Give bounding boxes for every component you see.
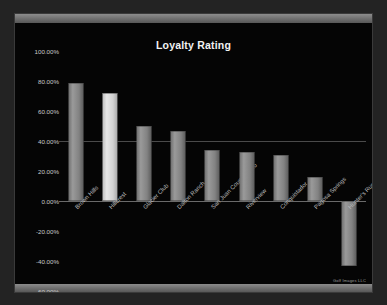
y-axis-tick-labels: 100.00%80.00%60.00%40.00%20.00%0.00%-20.…	[17, 23, 59, 284]
bar-slot: Brown Hills	[59, 23, 93, 284]
y-axis-tick-label: 80.00%	[38, 78, 59, 85]
y-axis-tick-label: -40.00%	[36, 258, 59, 265]
bar-slot: Pagosa Springs	[298, 23, 332, 284]
bar[interactable]	[103, 93, 118, 201]
y-axis-tick-label: 100.00%	[35, 48, 59, 55]
y-axis-tick-label: 20.00%	[38, 168, 59, 175]
bar-slot: Glacier Club	[127, 23, 161, 284]
slide-canvas: Loyalty Rating 100.00%80.00%60.00%40.00%…	[14, 13, 373, 293]
bar-slot: Dalton Ranch	[161, 23, 195, 284]
bar-slot: Riverview	[230, 23, 264, 284]
bar[interactable]	[171, 131, 186, 202]
bar-slot: Hunter's Run	[332, 23, 366, 284]
x-axis-category-label: Hunter's Run	[347, 181, 373, 210]
bar[interactable]	[69, 83, 84, 202]
slide-bottom-band	[15, 284, 372, 292]
bar-slot: Hillcrest	[93, 23, 127, 284]
y-axis-tick-label: -60.00%	[36, 288, 59, 294]
bar-slot: Conquistador	[264, 23, 298, 284]
bar-series: Brown HillsHillcrestGlacier ClubDalton R…	[59, 23, 366, 284]
bar[interactable]	[341, 201, 356, 266]
y-axis-tick-label: 0.00%	[41, 198, 59, 205]
slide-top-band	[15, 14, 372, 23]
y-axis-tick-label: -20.00%	[36, 228, 59, 235]
y-axis-tick-label: 40.00%	[38, 138, 59, 145]
watermark-text: Golf Images LLC	[333, 278, 366, 283]
screenshot-root: Loyalty Rating 100.00%80.00%60.00%40.00%…	[0, 0, 387, 305]
bar[interactable]	[137, 126, 152, 201]
bar[interactable]	[205, 150, 220, 201]
y-axis-tick-label: 60.00%	[38, 108, 59, 115]
bar-slot: San Juan Country Club	[195, 23, 229, 284]
bar[interactable]	[239, 152, 254, 202]
bar[interactable]	[273, 155, 288, 202]
chart-plot-area: Loyalty Rating 100.00%80.00%60.00%40.00%…	[15, 23, 372, 284]
